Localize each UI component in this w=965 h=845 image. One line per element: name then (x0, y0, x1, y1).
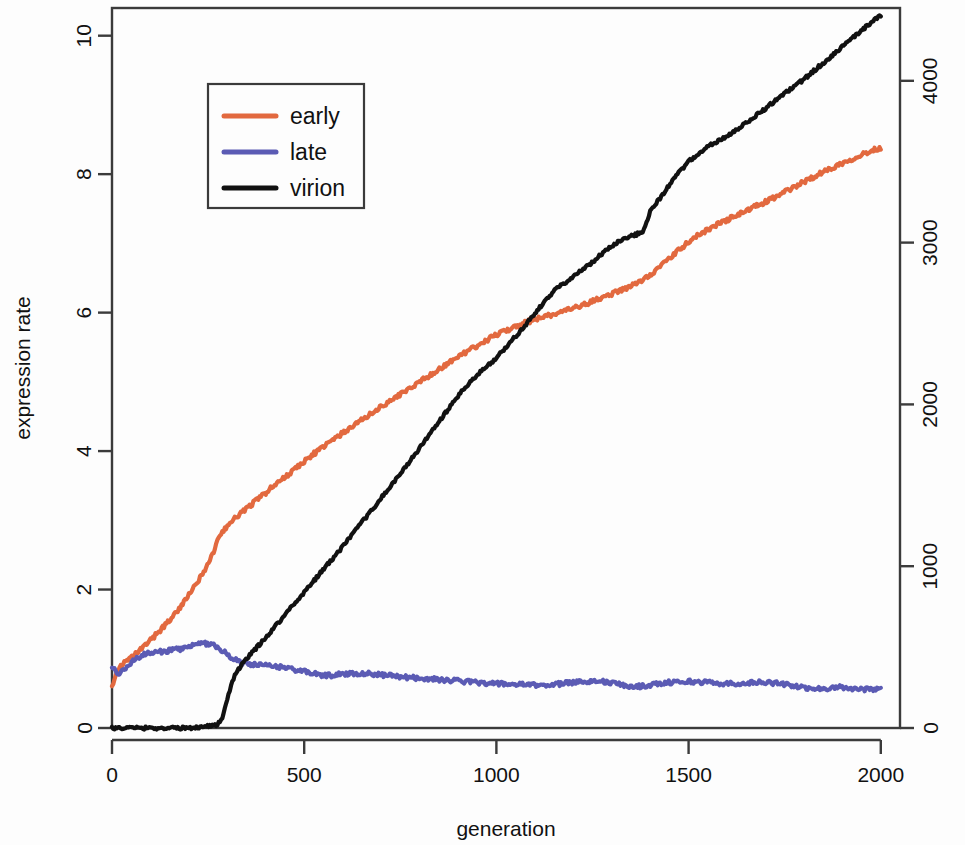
x-axis-title: generation (456, 817, 555, 840)
y-axis-tick-label: 8 (73, 168, 96, 180)
y2-axis-tick-label: 3000 (919, 219, 942, 266)
legend-label-late: late (290, 139, 327, 165)
x-axis-tick-label: 1000 (473, 763, 520, 786)
y2-axis-tick-label: 2000 (919, 381, 942, 428)
y-axis-tick-label: 10 (73, 24, 96, 47)
y2-axis-tick-label: 4000 (919, 57, 942, 104)
expression-rate-line-chart: 0246810 01000200030004000 05001000150020… (0, 0, 965, 845)
y-axis-tick-label: 4 (73, 445, 96, 457)
y2-axis-tick-label: 0 (919, 722, 942, 734)
y-axis-tick-label: 6 (73, 307, 96, 319)
y2-axis-tick-label: 1000 (919, 543, 942, 590)
x-axis-tick-label: 1500 (665, 763, 712, 786)
y-axis-tick-label: 0 (73, 722, 96, 734)
legend-label-early: early (290, 103, 340, 129)
x-axis-tick-label: 500 (287, 763, 322, 786)
x-axis-tick-label: 0 (106, 763, 118, 786)
y-axis-tick-label: 2 (73, 584, 96, 596)
chart-background (0, 0, 965, 845)
y-axis-title: expression rate (11, 296, 34, 440)
legend-label-virion: virion (290, 175, 345, 201)
chart-figure: 0246810 01000200030004000 05001000150020… (0, 0, 965, 845)
x-axis-tick-label: 2000 (857, 763, 904, 786)
